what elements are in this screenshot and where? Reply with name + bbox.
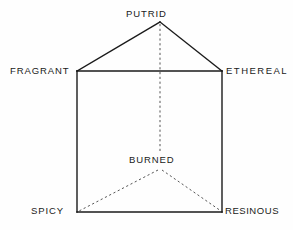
odor-prism-figure: PUTRID FRAGRANT ETHEREAL BURNED SPICY RE… xyxy=(0,0,293,230)
dashed-edges xyxy=(79,24,221,211)
edge-putrid-ethereal xyxy=(160,22,222,71)
solid-edges xyxy=(77,22,222,212)
vertex-label-burned: BURNED xyxy=(129,155,175,165)
vertex-label-fragrant: FRAGRANT xyxy=(10,66,69,76)
vertex-label-ethereal: ETHEREAL xyxy=(226,66,288,76)
vertex-label-spicy: SPICY xyxy=(31,206,64,216)
edge-burned-spicy xyxy=(79,170,158,211)
prism-drawing xyxy=(0,0,293,230)
vertex-label-putrid: PUTRID xyxy=(126,9,167,19)
edge-fragrant-putrid xyxy=(77,22,160,71)
vertex-label-resinous: RESINOUS xyxy=(225,206,279,216)
edge-burned-resinous xyxy=(162,170,221,211)
